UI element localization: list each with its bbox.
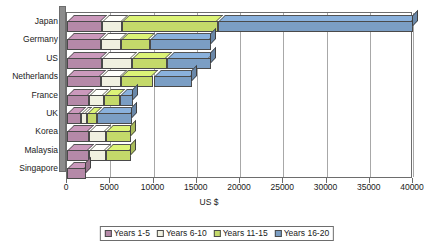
y-axis-category-labels: JapanGermanyUSNetherlandsFranceUKKoreaMa…: [0, 12, 60, 178]
bar-segment: [67, 58, 102, 69]
x-tick-label-0: 0: [64, 183, 69, 192]
bar-segment: [87, 113, 97, 124]
bar-segment: [102, 21, 123, 32]
bar-segment: [106, 150, 131, 161]
y-axis-label-singapore: Singapore: [19, 164, 58, 173]
bar-segment: [89, 95, 104, 106]
chart-container: JapanGermanyUSNetherlandsFranceUKKoreaMa…: [0, 0, 434, 250]
bar-segment: [67, 113, 81, 124]
bar-segment: [218, 21, 413, 32]
bar-segment: [67, 21, 102, 32]
legend-label: Years 6-10: [166, 229, 207, 238]
bar-segment: [120, 95, 133, 106]
bar-row-netherlands: [67, 76, 413, 87]
y-axis-label-malaysia: Malaysia: [24, 146, 58, 155]
gridline-40000: [413, 13, 414, 177]
bar-segment: [67, 95, 89, 106]
x-tick-label-25000: 25000: [270, 183, 294, 192]
bar-segment: [106, 131, 131, 142]
x-tick-label-10000: 10000: [141, 183, 165, 192]
x-tick-label-30000: 30000: [314, 183, 338, 192]
chart-3d-side-wall: [59, 6, 66, 172]
bar-segment: [101, 76, 122, 87]
legend-item-years-11-15[interactable]: Years 11-15: [214, 229, 268, 238]
bar-segment: [154, 76, 192, 87]
bar-segment: [67, 131, 89, 142]
bar-row-malaysia: [67, 150, 413, 161]
legend-label: Years 1-5: [114, 229, 150, 238]
x-axis-title: US $: [0, 198, 434, 207]
x-tick-label-20000: 20000: [227, 183, 251, 192]
bar-segment: [67, 150, 89, 161]
bar-segment: [89, 150, 106, 161]
bar-segment: [132, 58, 167, 69]
legend-item-years-1-5[interactable]: Years 1-5: [105, 229, 150, 238]
bar-segment: [150, 39, 211, 50]
bar-series-group: [67, 13, 411, 177]
bar-segment: [89, 131, 106, 142]
bar-segment: [67, 39, 101, 50]
bar-row-japan: [67, 21, 413, 32]
legend-swatch-icon: [275, 230, 282, 237]
bar-segment: [102, 58, 132, 69]
y-axis-label-japan: Japan: [35, 17, 58, 26]
bar-row-germany: [67, 39, 413, 50]
x-tick-label-15000: 15000: [184, 183, 208, 192]
y-axis-label-korea: Korea: [35, 127, 58, 136]
legend-label: Years 16-20: [284, 229, 330, 238]
legend-swatch-icon: [157, 230, 164, 237]
bar-row-uk: [67, 113, 413, 124]
bar-row-france: [67, 95, 413, 106]
bar-row-us: [67, 58, 413, 69]
x-tick-label-35000: 35000: [357, 183, 381, 192]
x-axis: 0500010000150002000025000300003500040000: [59, 178, 413, 192]
legend-label: Years 11-15: [223, 229, 268, 238]
x-tick-label-5000: 5000: [100, 183, 119, 192]
y-axis-label-netherlands: Netherlands: [12, 72, 58, 81]
chart-legend: Years 1-5Years 6-10Years 11-15Years 16-2…: [100, 226, 334, 241]
bar-segment: [67, 76, 101, 87]
legend-swatch-icon: [214, 230, 221, 237]
legend-item-years-16-20[interactable]: Years 16-20: [275, 229, 330, 238]
y-axis-label-us: US: [46, 54, 58, 63]
bar-segment: [167, 58, 210, 69]
y-axis-label-france: France: [32, 91, 58, 100]
bar-segment: [122, 21, 218, 32]
bar-segment: [101, 39, 122, 50]
y-axis-label-uk: UK: [46, 109, 58, 118]
y-axis-label-germany: Germany: [23, 35, 58, 44]
x-tick-label-40000: 40000: [400, 183, 424, 192]
plot-area: [66, 12, 412, 178]
bar-segment: [104, 95, 120, 106]
bar-segment: [97, 113, 132, 124]
x-axis-title-label: US $: [200, 197, 219, 207]
bar-segment: [121, 39, 150, 50]
legend-item-years-6-10[interactable]: Years 6-10: [157, 229, 207, 238]
bar-row-korea: [67, 131, 413, 142]
legend-swatch-icon: [105, 230, 112, 237]
